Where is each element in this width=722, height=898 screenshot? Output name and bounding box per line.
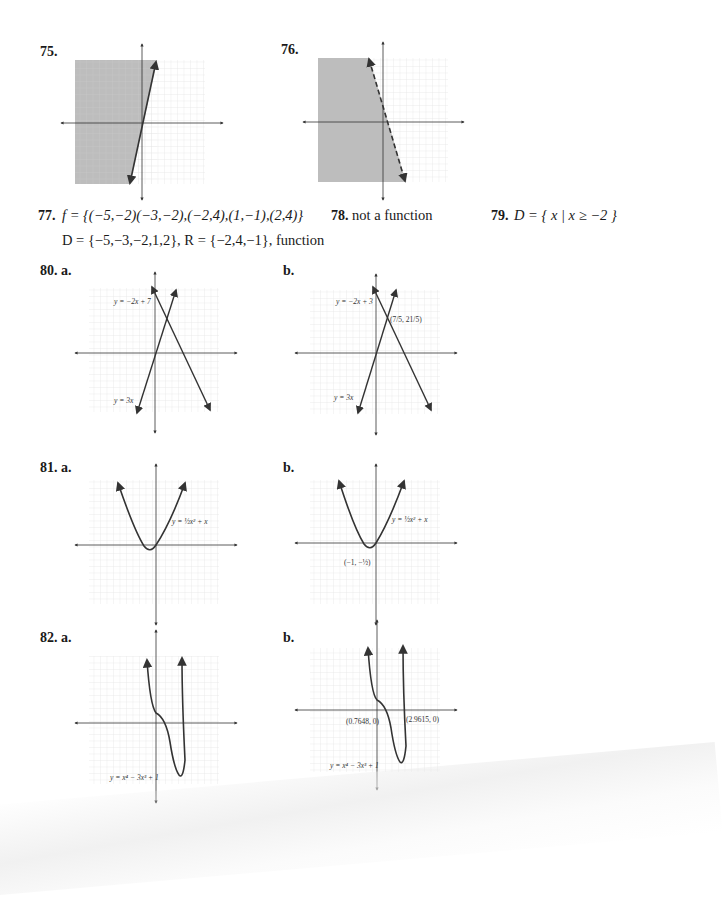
parabola-label-81b: y = ½x² + x — [391, 515, 428, 524]
label-line-80b-2: y = 3x — [333, 393, 354, 402]
problem-number-82b: b. — [283, 630, 294, 646]
graph-75 — [60, 42, 230, 200]
problem-number-80a: 80. a. — [40, 263, 72, 279]
domain-range-statement: D = {−5,−3,−2,1,2}, R = {−2,4,−1}, funct… — [62, 232, 324, 249]
graph-81a: y = ½x² + x — [74, 462, 239, 627]
problem-number-81a: 81. a. — [40, 460, 72, 476]
label-line-80a-2: y = 3x — [113, 396, 134, 405]
problem-number-76: 76. — [281, 42, 299, 58]
intersection-point-label: (7/5, 21/5) — [390, 315, 422, 324]
graph-81b: y = ½x² + x (−1, −½) — [294, 462, 459, 627]
label-line-80b-1: y = −2x + 3 — [335, 297, 373, 306]
graph-80a: y = −2x + 7 y = 3x — [74, 270, 239, 435]
problem-number-80b: b. — [283, 263, 294, 279]
root-label-2: (2.9615, 0) — [406, 715, 440, 724]
problem-number-79: 79. — [491, 208, 509, 224]
quartic-label-82b: y = x⁴ − 3x³ + 1 — [329, 761, 379, 770]
problem-number-82a: 82. a. — [40, 630, 72, 646]
problem-number-81b: b. — [283, 460, 294, 476]
graph-76 — [302, 40, 467, 200]
function-set-f: f = {(−5,−2)(−3,−2),(−2,4),(1,−1),(2,4)} — [62, 207, 303, 224]
problem-number-77: 77. — [38, 208, 56, 224]
root-label-1: (0.7648, 0) — [346, 717, 380, 726]
problem-number-78: 78. — [331, 208, 349, 224]
parabola-label-81a: y = ½x² + x — [171, 517, 208, 526]
answer-79: D = { x | x ≥ −2 } — [514, 207, 617, 224]
problem-number-75: 75. — [40, 44, 58, 60]
label-line-80a-1: y = −2x + 7 — [113, 297, 151, 306]
vertex-label: (−1, −½) — [344, 558, 371, 567]
answer-78: not a function — [352, 207, 433, 224]
graph-82a: y = x⁴ − 3x³ + 1 — [74, 630, 239, 805]
graph-80b: y = −2x + 3 (7/5, 21/5) y = 3x — [294, 272, 459, 437]
quartic-label-82a: y = x⁴ − 3x³ + 1 — [109, 773, 159, 782]
